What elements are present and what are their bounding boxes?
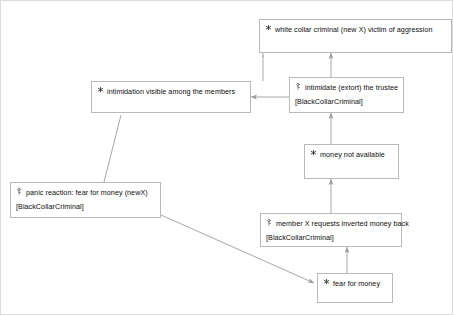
- agent-asterisk-icon: [97, 86, 104, 95]
- node-white-collar-criminal-victim[interactable]: white collar criminal (new X) victim of …: [259, 19, 452, 53]
- node-label: money not available: [320, 149, 385, 160]
- agent-asterisk-icon: [323, 278, 330, 287]
- task-key-icon: [295, 82, 302, 91]
- node-intimidate-extort-trustee[interactable]: intimidate (extort) the trustee [BlackCo…: [289, 77, 404, 113]
- node-subtitle: [BlackCollarCriminal]: [295, 96, 398, 107]
- edge-panic-to-intimidation: [104, 115, 121, 182]
- node-label: intimidate (extort) the trustee: [305, 82, 398, 93]
- node-member-requests-money-back[interactable]: member X requests inverted money back [B…: [260, 213, 402, 247]
- node-intimidation-visible[interactable]: intimidation visible among the members: [91, 81, 251, 113]
- node-title: fear for money: [323, 278, 387, 289]
- node-label: intimidation visible among the members: [107, 86, 235, 97]
- node-title: intimidate (extort) the trustee: [295, 82, 398, 93]
- node-panic-reaction[interactable]: panic reaction: fear for money (newX) [B…: [10, 182, 161, 218]
- node-label: member X requests inverted money back: [276, 218, 409, 229]
- node-fear-for-money[interactable]: fear for money: [317, 273, 393, 303]
- diagram-canvas: white collar criminal (new X) victim of …: [0, 0, 453, 315]
- node-label: panic reaction: fear for money (newX): [26, 187, 148, 198]
- agent-asterisk-icon: [310, 149, 317, 158]
- node-title: white collar criminal (new X) victim of …: [265, 24, 446, 35]
- node-title: money not available: [310, 149, 393, 160]
- node-title: intimidation visible among the members: [97, 86, 245, 97]
- node-title: member X requests inverted money back: [266, 218, 396, 229]
- node-label: white collar criminal (new X) victim of …: [275, 24, 432, 35]
- node-subtitle: [BlackCollarCriminal]: [266, 232, 396, 243]
- node-label: fear for money: [333, 278, 380, 289]
- node-money-not-available[interactable]: money not available: [304, 144, 399, 179]
- task-key-icon: [266, 218, 273, 227]
- task-key-icon: [16, 187, 23, 196]
- node-title: panic reaction: fear for money (newX): [16, 187, 155, 198]
- node-subtitle: [BlackCollarCriminal]: [16, 201, 155, 212]
- agent-asterisk-icon: [265, 24, 272, 33]
